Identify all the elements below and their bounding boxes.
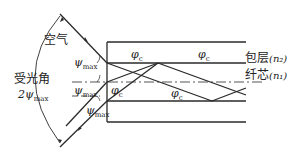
cladding-label: 包层(n₂) xyxy=(245,52,287,64)
acceptance-angle-value: 2ψmax xyxy=(18,89,48,103)
phi-c-label-2: φc xyxy=(198,49,210,63)
psi-max-label-mid: ψmax xyxy=(74,85,97,99)
phi-c-label-3: φc xyxy=(111,85,123,99)
psi-max-label-top: ψmax xyxy=(74,57,97,71)
acceptance-angle-label: 受光角 xyxy=(14,73,50,85)
phi-c-label-4: φc xyxy=(171,88,183,102)
air-label: 空气 xyxy=(44,34,68,46)
phi-c-label-1: φc xyxy=(131,49,143,63)
core-label: 纤芯(n₁) xyxy=(245,69,287,81)
psi-max-label-low: ψmax xyxy=(86,105,109,119)
